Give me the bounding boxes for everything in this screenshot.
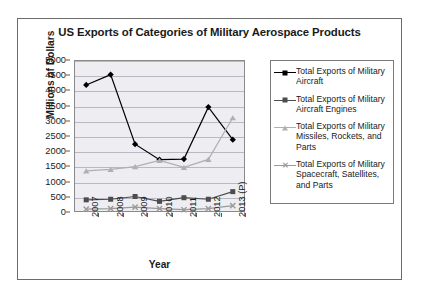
y-tick-label: 1500	[45, 161, 66, 171]
data-point-marker	[181, 156, 187, 162]
data-point-marker	[181, 195, 186, 200]
x-tick-label: 2013 (P)	[237, 181, 247, 217]
data-point-marker	[133, 194, 138, 199]
legend-item[interactable]: Total Exports of Military Missiles, Rock…	[274, 121, 390, 152]
x-tick-mark	[196, 213, 197, 217]
y-tick-mark	[66, 181, 70, 182]
plot-area-wrapper	[74, 60, 245, 212]
data-point-marker	[132, 141, 138, 147]
y-tick-label: 5000	[45, 55, 66, 65]
legend-marker-diamond-icon	[274, 67, 296, 78]
legend-label: Total Exports of Military Aircraft Engin…	[296, 94, 390, 115]
y-tick-mark	[66, 166, 70, 167]
x-tick-mark	[98, 213, 99, 217]
data-point-marker	[108, 197, 113, 202]
legend-item[interactable]: ✕Total Exports of Military Spacecraft, S…	[274, 159, 390, 190]
x-tick-mark	[172, 213, 173, 217]
chart-legend: Total Exports of Military AircraftTotal …	[270, 60, 394, 204]
data-point-marker	[230, 115, 236, 120]
data-point-marker	[84, 197, 89, 202]
chart-title: US Exports of Categories of Military Aer…	[18, 26, 401, 38]
data-point-marker	[108, 71, 114, 77]
x-axis-title: Year	[74, 259, 245, 270]
legend-marker-square-icon	[274, 95, 296, 106]
y-tick-mark	[66, 105, 70, 106]
x-tick-mark	[245, 213, 246, 217]
y-tick-label: 3000	[45, 116, 66, 126]
x-tick-mark	[123, 213, 124, 217]
y-tick-label: 2000	[45, 146, 66, 156]
data-point-marker	[230, 189, 235, 194]
series-line	[86, 118, 233, 171]
series-layer	[74, 60, 245, 212]
y-tick-mark	[66, 90, 70, 91]
legend-item[interactable]: Total Exports of Military Aircraft Engin…	[274, 94, 390, 115]
data-point-marker	[205, 157, 211, 162]
y-tick-label: 500	[50, 192, 66, 202]
chart-figure: US Exports of Categories of Military Aer…	[17, 18, 402, 280]
y-tick-label: 3500	[45, 101, 66, 111]
y-tick-mark	[66, 75, 70, 76]
legend-marker-triangle-icon	[274, 122, 296, 133]
legend-marker-x-icon: ✕	[274, 160, 296, 171]
y-tick-label: 4000	[45, 85, 66, 95]
series-line	[86, 75, 233, 160]
data-point-marker	[181, 165, 187, 170]
data-point-marker	[157, 199, 162, 204]
legend-label: Total Exports of Military Missiles, Rock…	[296, 121, 390, 152]
x-tick-mark	[221, 213, 222, 217]
x-axis-ticks: 2007200820092010201120122013 (P)	[74, 213, 245, 263]
y-tick-mark	[66, 120, 70, 121]
y-tick-label: 1000	[45, 177, 66, 187]
y-tick-mark	[66, 136, 70, 137]
y-tick-mark	[66, 60, 70, 61]
y-tick-label: 2500	[45, 131, 66, 141]
y-tick-mark	[66, 196, 70, 197]
y-axis-ticks: 0500100015002000250030003500400045005000	[18, 60, 70, 212]
legend-label: Total Exports of Military Aircraft	[296, 66, 390, 87]
y-tick-mark	[66, 151, 70, 152]
x-tick-mark	[147, 213, 148, 217]
legend-label: Total Exports of Military Spacecraft, Sa…	[296, 159, 390, 190]
data-point-marker	[206, 197, 211, 202]
legend-item[interactable]: Total Exports of Military Aircraft	[274, 66, 390, 87]
y-tick-mark	[66, 212, 70, 213]
y-tick-label: 4500	[45, 70, 66, 80]
data-point-marker	[83, 82, 89, 88]
